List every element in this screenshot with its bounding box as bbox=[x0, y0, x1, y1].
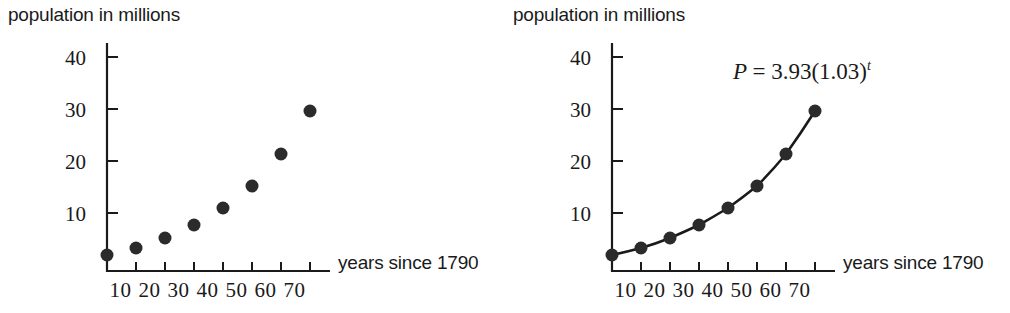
data-point bbox=[751, 180, 764, 193]
data-point bbox=[606, 249, 619, 262]
equation-coefficient: 3.93(1.03) bbox=[771, 59, 867, 84]
data-point bbox=[275, 148, 288, 161]
data-point bbox=[304, 105, 317, 118]
fitted-curve bbox=[612, 111, 815, 255]
x-tick-label-20: 20 bbox=[135, 278, 164, 303]
x-tick-label-60: 60 bbox=[756, 278, 785, 303]
y-tick-marks bbox=[612, 57, 623, 213]
data-point bbox=[188, 219, 201, 232]
data-point bbox=[246, 180, 259, 193]
x-tick-label-60: 60 bbox=[251, 278, 280, 303]
curve-panel: population in millions 40 30 20 10 bbox=[505, 0, 1010, 313]
x-axis-label: years since 1790 bbox=[843, 252, 983, 274]
data-point bbox=[722, 202, 735, 215]
equation-equals: = bbox=[752, 59, 765, 84]
x-tick-label-10: 10 bbox=[106, 278, 135, 303]
x-tick-label-50: 50 bbox=[222, 278, 251, 303]
data-point bbox=[159, 232, 172, 245]
x-tick-label-40: 40 bbox=[193, 278, 222, 303]
data-point bbox=[780, 148, 793, 161]
scatter-panel: population in millions 40 30 20 10 bbox=[0, 0, 505, 313]
data-point bbox=[664, 232, 677, 245]
x-tick-label-40: 40 bbox=[698, 278, 727, 303]
x-axis-label: years since 1790 bbox=[338, 252, 478, 274]
data-point bbox=[693, 219, 706, 232]
figure-canvas: population in millions 40 30 20 10 bbox=[0, 0, 1010, 313]
x-tick-label-50: 50 bbox=[727, 278, 756, 303]
y-tick-marks bbox=[107, 57, 118, 213]
data-point bbox=[217, 202, 230, 215]
data-point bbox=[101, 249, 114, 262]
equation-lhs: P bbox=[733, 59, 747, 84]
x-tick-label-20: 20 bbox=[640, 278, 669, 303]
x-tick-label-30: 30 bbox=[669, 278, 698, 303]
x-tick-label-30: 30 bbox=[164, 278, 193, 303]
data-point bbox=[130, 242, 143, 255]
data-point bbox=[809, 105, 822, 118]
equation-annotation: P = 3.93(1.03)t bbox=[733, 58, 871, 85]
x-tick-label-10: 10 bbox=[611, 278, 640, 303]
x-tick-label-70: 70 bbox=[280, 278, 309, 303]
x-tick-label-row: 10203040506070 bbox=[611, 278, 814, 303]
x-tick-marks bbox=[641, 262, 815, 271]
x-tick-marks bbox=[136, 262, 310, 271]
data-point bbox=[635, 242, 648, 255]
data-points bbox=[606, 105, 822, 262]
x-tick-label-70: 70 bbox=[785, 278, 814, 303]
x-tick-label-row: 10203040506070 bbox=[106, 278, 309, 303]
equation-exponent: t bbox=[867, 58, 871, 73]
data-points bbox=[101, 105, 317, 262]
